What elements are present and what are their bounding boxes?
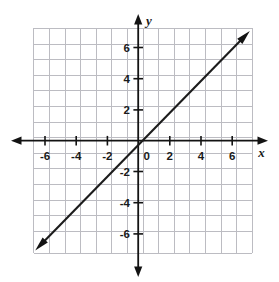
y-tick-label-neg2: -2 <box>120 166 130 178</box>
graph-canvas: -6 -4 -2 2 4 6 6 4 2 -2 -4 -6 0 x y <box>0 0 279 282</box>
x-axis-label: x <box>257 145 265 160</box>
y-tick-label-neg4: -4 <box>120 197 131 209</box>
y-axis-arrow-down <box>134 267 142 278</box>
y-axis-arrow-up <box>134 14 142 25</box>
x-tick-label-pos4: 4 <box>198 150 205 162</box>
x-tick-label-pos2: 2 <box>167 150 173 162</box>
y-tick-label-pos4: 4 <box>124 73 131 85</box>
x-axis-arrow-right <box>258 137 269 145</box>
y-axis-label: y <box>144 13 152 28</box>
y-tick-label-neg6: -6 <box>120 228 130 240</box>
x-tick-label-neg4: -4 <box>71 150 82 162</box>
x-tick-label-pos6: 6 <box>229 150 235 162</box>
origin-label: 0 <box>144 150 150 162</box>
x-tick-label-neg2: -2 <box>102 150 112 162</box>
y-tick-label-pos6: 6 <box>124 42 130 54</box>
y-tick-label-pos2: 2 <box>124 104 130 116</box>
coordinate-plane-graph: -6 -4 -2 2 4 6 6 4 2 -2 -4 -6 0 x y <box>0 0 279 282</box>
x-tick-label-neg6: -6 <box>40 150 50 162</box>
x-axis-arrow-left <box>11 137 22 145</box>
